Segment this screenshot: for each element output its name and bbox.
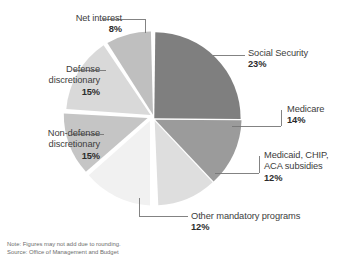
pie-label-medicare-value: 14% (287, 115, 324, 126)
pie-label-defense-text-line2: discretionary (49, 75, 100, 85)
pie-label-non-defense-text-line2: discretionary (49, 139, 100, 149)
pie-label-other-mandatory-value: 12% (191, 222, 300, 233)
chart-footnotes: Note: Figures may not add due to roundin… (7, 240, 121, 256)
pie-label-medicaid-chip-aca[interactable]: Medicaid, CHIP, ACA subsidies 12% (264, 150, 328, 184)
pie-label-other-mandatory[interactable]: Other mandatory programs 12% (191, 211, 300, 234)
pie-label-medicare-text: Medicare (287, 104, 324, 114)
pie-chart-figure: Social Security 23% Medicare 14% Medicai… (0, 0, 347, 271)
pie-label-net-interest-value: 8% (42, 24, 122, 35)
pie-label-non-defense-text-line1: Non-defense (48, 128, 100, 138)
pie-label-social-security-value: 23% (248, 59, 308, 70)
pie-label-defense-text-line1: Defense (66, 64, 100, 74)
pie-label-medicare[interactable]: Medicare 14% (287, 104, 324, 127)
pie-label-medicaid-chip-aca-value: 12% (264, 173, 328, 184)
pie-slices (64, 31, 242, 205)
pie-label-defense-discretionary[interactable]: Defense discretionary 15% (6, 64, 100, 98)
footnote-source: Source: Office of Management and Budget (7, 248, 121, 256)
pie-label-non-defense-discretionary[interactable]: Non-defense discretionary 15% (6, 128, 100, 162)
pie-label-social-security[interactable]: Social Security 23% (248, 48, 308, 71)
pie-label-social-security-text: Social Security (248, 48, 308, 58)
pie-label-defense-value: 15% (6, 87, 100, 98)
pie-label-medicaid-chip-aca-text-line1: Medicaid, CHIP, (264, 150, 328, 160)
pie-label-other-mandatory-text: Other mandatory programs (191, 211, 300, 221)
pie-label-medicaid-chip-aca-text-line2: ACA subsidies (264, 161, 323, 171)
footnote-note: Note: Figures may not add due to roundin… (7, 240, 121, 248)
pie-label-non-defense-value: 15% (6, 151, 100, 162)
pie-label-net-interest-text: Net interest (76, 13, 122, 23)
pie-slice-social-security[interactable] (154, 32, 240, 119)
pie-label-net-interest[interactable]: Net interest 8% (42, 13, 122, 36)
